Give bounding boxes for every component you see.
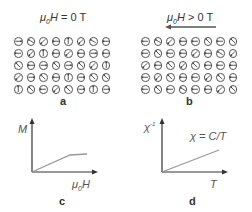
spin-arrow-icon [27, 37, 36, 46]
spin-arrow-icon [89, 85, 98, 94]
spin-arrow-icon [27, 61, 36, 70]
spin-arrow-icon [179, 49, 188, 58]
x-axis-label-mu0h: μ0H [72, 178, 90, 192]
spin-arrow-icon [191, 85, 200, 94]
spin-arrow-icon [141, 73, 150, 82]
spin-arrow-icon [229, 85, 238, 94]
spin-arrow-icon [229, 73, 238, 82]
panel-b-label: b [186, 95, 193, 107]
spin-arrow-icon [229, 61, 238, 70]
spin-arrow-icon [154, 49, 163, 58]
spin-arrow-icon [204, 73, 213, 82]
spin-arrow-icon [102, 73, 111, 82]
spin-arrow-icon [89, 37, 98, 46]
spin-arrow-icon [39, 49, 48, 58]
spin-arrow-icon [64, 61, 73, 70]
panel-a-label: a [60, 95, 66, 107]
spin-arrow-icon [89, 61, 98, 70]
spin-arrow-icon [102, 85, 111, 94]
panel-c-label: c [59, 195, 65, 207]
spin-arrow-icon [64, 85, 73, 94]
spin-arrow-icon [191, 73, 200, 82]
spin-arrow-icon [141, 85, 150, 94]
spin-arrow-icon [102, 37, 111, 46]
inverse-susceptibility-plot [155, 118, 230, 178]
spin-arrow-icon [179, 73, 188, 82]
spin-arrow-icon [14, 85, 23, 94]
spin-arrow-icon [89, 73, 98, 82]
spin-arrow-icon [77, 37, 86, 46]
spin-arrow-icon [166, 49, 175, 58]
spin-arrow-icon [77, 49, 86, 58]
spin-arrow-icon [154, 37, 163, 46]
spin-arrow-icon [141, 49, 150, 58]
spin-arrow-icon [154, 73, 163, 82]
spin-arrow-icon [14, 37, 23, 46]
spin-arrow-icon [64, 49, 73, 58]
spin-arrow-icon [27, 85, 36, 94]
spin-arrow-icon [166, 73, 175, 82]
spin-arrow-icon [179, 61, 188, 70]
spin-arrow-icon [204, 85, 213, 94]
spin-arrow-icon [204, 49, 213, 58]
spin-arrow-icon [89, 49, 98, 58]
y-axis-label-m: M [18, 123, 27, 135]
panel-d-label: d [189, 195, 196, 207]
inverse-superscript: -1 [150, 121, 155, 127]
spin-arrow-icon [216, 49, 225, 58]
y-axis-label-chi-inverse: χ-1 [144, 121, 155, 133]
x-axis-label-t: T [210, 178, 217, 190]
spin-arrow-icon [204, 37, 213, 46]
spin-arrow-icon [14, 73, 23, 82]
spin-arrow-icon [39, 61, 48, 70]
spin-arrow-icon [154, 61, 163, 70]
spin-arrow-icon [52, 61, 61, 70]
spin-arrow-icon [179, 37, 188, 46]
spin-arrow-icon [191, 49, 200, 58]
spin-arrow-icon [39, 85, 48, 94]
spin-arrow-icon [191, 37, 200, 46]
spin-arrow-icon [216, 73, 225, 82]
spin-arrow-icon [39, 73, 48, 82]
spin-arrow-icon [166, 85, 175, 94]
magnetization-plot [25, 118, 100, 178]
spin-arrow-icon [179, 85, 188, 94]
spin-arrow-icon [154, 85, 163, 94]
spin-arrow-icon [52, 85, 61, 94]
spin-arrow-icon [191, 61, 200, 70]
spin-arrow-icon [141, 61, 150, 70]
spin-arrow-icon [166, 61, 175, 70]
spin-arrow-icon [64, 37, 73, 46]
spin-arrow-icon [27, 73, 36, 82]
spin-arrow-icon [229, 49, 238, 58]
spin-arrow-icon [14, 49, 23, 58]
spin-arrow-icon [216, 37, 225, 46]
curie-law-annotation: χ = C/T [190, 130, 226, 142]
h-symbol: H [82, 178, 90, 190]
spin-arrow-icon [52, 37, 61, 46]
spin-arrow-icon [39, 37, 48, 46]
spin-arrow-icon [64, 73, 73, 82]
spin-arrow-icon [14, 61, 23, 70]
spin-arrow-icon [102, 61, 111, 70]
spin-arrow-icon [216, 61, 225, 70]
spin-arrow-icon [27, 49, 36, 58]
spin-arrow-icon [216, 85, 225, 94]
spin-arrow-icon [102, 49, 111, 58]
spin-arrow-icon [52, 73, 61, 82]
spin-arrow-icon [77, 73, 86, 82]
spin-arrow-icon [77, 61, 86, 70]
field-arrow-icon [165, 24, 217, 30]
spin-arrow-icon [52, 49, 61, 58]
spin-arrow-icon [141, 37, 150, 46]
spin-arrow-icon [77, 85, 86, 94]
panel-a-title: μ0H = 0 T [40, 11, 86, 25]
spin-arrow-icon [166, 37, 175, 46]
spin-arrow-icon [229, 37, 238, 46]
spin-arrow-icon [204, 61, 213, 70]
